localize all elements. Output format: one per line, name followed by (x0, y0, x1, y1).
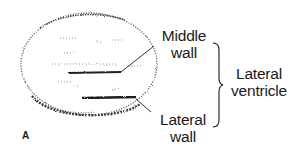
curly-brace-icon (213, 43, 223, 127)
lateral-wall-echo (82, 97, 136, 98)
lateral-ventricle-label-line1: Lateral (226, 65, 292, 82)
middle-wall-label-line1: Middle (156, 27, 212, 44)
lateral-wall-label-line1: Lateral (154, 111, 212, 128)
lateral-wall-label-line2: wall (154, 128, 212, 145)
middle-wall-label: Middle wall (156, 27, 212, 61)
lateral-ventricle-diagram: Middle wall Lateral wall Lateral ventric… (0, 0, 308, 154)
middle-wall-leader-line (121, 46, 154, 72)
lateral-ventricle-label: Lateral ventricle (226, 65, 292, 99)
middle-wall-echo (68, 72, 121, 73)
lateral-wall-label: Lateral wall (154, 111, 212, 145)
lateral-ventricle-label-line2: ventricle (226, 82, 292, 99)
panel-letter: A (22, 130, 29, 141)
internal-echoes (52, 38, 142, 90)
middle-wall-label-line2: wall (156, 44, 212, 61)
